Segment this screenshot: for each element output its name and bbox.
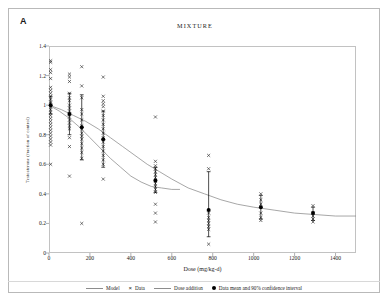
plot-area bbox=[49, 46, 356, 253]
chart-legend: Model×DataDose additionData mean and 90%… bbox=[8, 281, 380, 294]
mean-error-bars bbox=[49, 93, 315, 236]
x-tick-label: 800 bbox=[209, 255, 217, 261]
x-tick-label: 1000 bbox=[248, 255, 259, 261]
legend-item-data: ×Data bbox=[129, 285, 145, 291]
x-axis-label: Dose (mg/kg-d) bbox=[49, 266, 356, 272]
y-tick-label: 0.8 bbox=[16, 132, 49, 138]
plot-canvas bbox=[49, 46, 356, 253]
y-tick-label: 0.6 bbox=[16, 161, 49, 167]
y-tick-label: 1.2 bbox=[16, 73, 49, 79]
chart-title: MIXTURE bbox=[0, 22, 390, 29]
legend-item-model: Model bbox=[86, 285, 120, 291]
y-tick-label: 1.4 bbox=[16, 43, 49, 49]
y-tick-label: 0.2 bbox=[16, 220, 49, 226]
legend-item-mean_ci: Data mean and 90% confidence interval bbox=[212, 285, 302, 291]
x-tick-label: 600 bbox=[168, 255, 176, 261]
legend-label: Model bbox=[106, 285, 120, 291]
legend-line-icon bbox=[154, 288, 171, 289]
legend-cross-icon: × bbox=[129, 285, 133, 291]
data-scatter bbox=[49, 59, 314, 245]
legend-item-dose_addition: Dose addition bbox=[154, 285, 203, 291]
x-tick-label: 1400 bbox=[330, 255, 341, 261]
x-tick-label: 400 bbox=[127, 255, 135, 261]
x-tick-label: 0 bbox=[48, 255, 51, 261]
x-tick-label: 1200 bbox=[289, 255, 300, 261]
legend-label: Dose addition bbox=[174, 285, 203, 291]
y-tick-label: 0.4 bbox=[16, 191, 49, 197]
legend-label: Data bbox=[135, 285, 145, 291]
legend-label: Data mean and 90% confidence interval bbox=[219, 285, 302, 291]
x-tick-label: 200 bbox=[86, 255, 94, 261]
y-axis-ticks: 00.20.40.60.811.21.4 bbox=[15, 46, 49, 253]
y-tick-label: 0 bbox=[16, 250, 49, 256]
legend-dot-icon bbox=[212, 286, 216, 290]
y-tick-label: 1 bbox=[16, 102, 49, 108]
model-curve bbox=[49, 105, 356, 216]
figure-panel: A MIXTURE Testosterone (fraction of cont… bbox=[0, 0, 390, 308]
legend-line-icon bbox=[86, 288, 103, 289]
